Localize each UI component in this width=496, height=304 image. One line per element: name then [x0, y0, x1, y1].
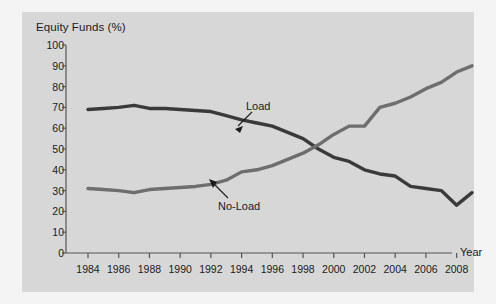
chart-axes [66, 45, 452, 253]
x-tick-marks [88, 253, 457, 258]
screenshot-root: Equity Funds (%) Year 100 90 80 70 60 50… [0, 0, 496, 304]
chart-plot-area [0, 0, 496, 304]
